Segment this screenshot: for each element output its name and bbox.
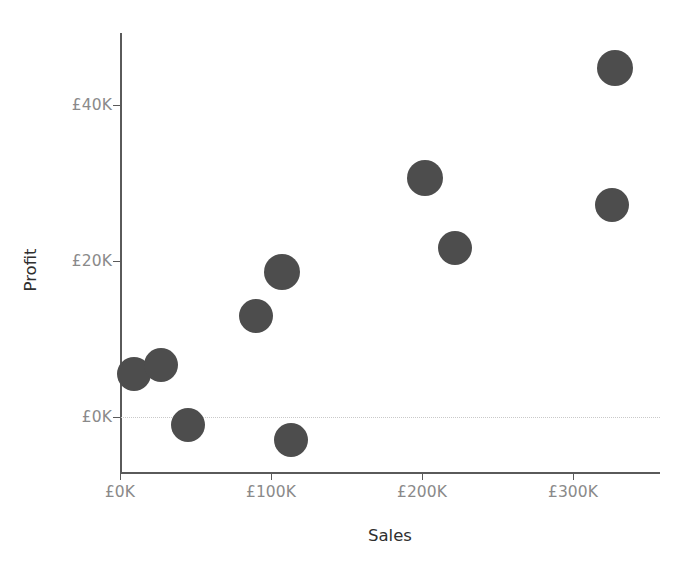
data-point[interactable] — [144, 348, 178, 382]
x-tick-mark — [271, 473, 272, 480]
y-tick-label: £20K — [72, 252, 112, 270]
scatter-chart: £0K£20K£40K £0K£100K£200K£300K Profit Sa… — [0, 0, 679, 562]
x-tick-mark — [422, 473, 423, 480]
data-point[interactable] — [274, 423, 308, 457]
x-tick-label: £200K — [397, 483, 447, 501]
data-point[interactable] — [595, 188, 629, 222]
y-tick-label: £40K — [72, 96, 112, 114]
y-tick-mark — [113, 261, 120, 262]
y-tick-mark — [113, 417, 120, 418]
data-point[interactable] — [264, 254, 300, 290]
x-axis-line — [120, 472, 660, 474]
x-tick-label: £0K — [105, 483, 135, 501]
data-point[interactable] — [407, 160, 443, 196]
data-point[interactable] — [171, 408, 205, 442]
data-point[interactable] — [438, 231, 472, 265]
data-point[interactable] — [597, 50, 633, 86]
y-axis-title: Profit — [21, 248, 40, 291]
y-tick-mark — [113, 105, 120, 106]
x-tick-mark — [573, 473, 574, 480]
data-point[interactable] — [239, 299, 273, 333]
x-tick-mark — [120, 473, 121, 480]
y-axis-line — [120, 33, 122, 473]
x-tick-label: £100K — [246, 483, 296, 501]
x-axis-title: Sales — [368, 526, 412, 545]
x-tick-label: £300K — [548, 483, 598, 501]
y-tick-label: £0K — [82, 408, 112, 426]
